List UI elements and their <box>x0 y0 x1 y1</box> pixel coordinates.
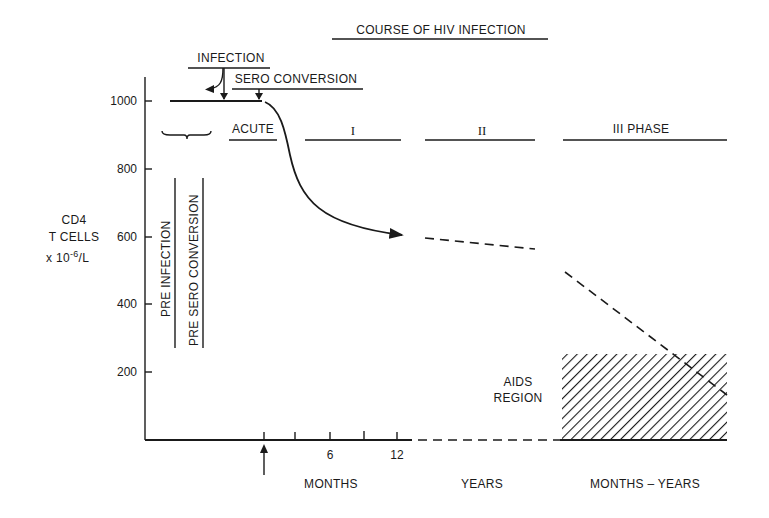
y-tick-600: 600 <box>117 230 137 244</box>
phase-i-label: I <box>351 123 355 138</box>
y-tick-400: 400 <box>117 297 137 311</box>
pre-infection-label: PRE INFECTION <box>159 220 173 317</box>
cd4-curve-acute-phase1 <box>265 102 402 235</box>
pre-sero-conversion-label: PRE SERO CONVERSION <box>187 194 201 346</box>
y-label-line1: CD4 <box>62 213 87 227</box>
sero-conversion-label: SERO CONVERSION <box>235 72 358 86</box>
hiv-course-chart: COURSE OF HIV INFECTION 1000 800 600 400… <box>0 0 769 518</box>
phase-iii-label: III PHASE <box>613 122 670 136</box>
pre-brace <box>162 131 211 139</box>
y-label-line2: T CELLS <box>49 230 100 244</box>
arrow-up-icon <box>260 444 268 453</box>
aids-region-label-1: AIDS <box>503 375 532 389</box>
arrow-left-icon <box>205 85 214 93</box>
y-tick-200: 200 <box>117 365 137 379</box>
x-tick-12: 12 <box>390 448 404 462</box>
x-tick-6: 6 <box>327 448 334 462</box>
y-ticks <box>145 101 152 372</box>
infection-curve <box>210 68 223 89</box>
x-label-years: YEARS <box>461 477 503 491</box>
arrow-down-icon <box>220 93 228 100</box>
cd4-dashed-phase2 <box>425 238 535 249</box>
y-tick-800: 800 <box>117 162 137 176</box>
y-label-line3: x 10-6/L <box>46 249 89 265</box>
chart-title: COURSE OF HIV INFECTION <box>356 23 526 37</box>
y-tick-1000: 1000 <box>110 94 137 108</box>
infection-label: INFECTION <box>197 51 264 65</box>
x-label-months: MONTHS <box>304 477 358 491</box>
x-ticks <box>264 431 397 440</box>
arrow-down-icon <box>255 93 263 100</box>
phase-acute-label: ACUTE <box>232 122 274 136</box>
aids-region-label-2: REGION <box>493 391 542 405</box>
aids-region-hatch <box>562 354 727 440</box>
x-label-months-years: MONTHS – YEARS <box>590 477 700 491</box>
phase-ii-label: II <box>478 123 487 138</box>
